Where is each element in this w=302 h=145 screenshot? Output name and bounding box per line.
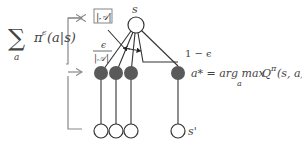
state-node-s — [128, 17, 144, 33]
svg-text:|𝒜|: |𝒜| — [94, 53, 109, 64]
state-label-s: s — [132, 3, 138, 16]
next-state-node — [94, 124, 108, 138]
policy-args: (a|s) — [47, 30, 76, 45]
svg-text:Q: Q — [262, 67, 271, 80]
next-state-node — [124, 124, 138, 138]
next-state-node-s-prime — [171, 124, 185, 138]
epsilon-fraction-label: ϵ |𝒜| — [93, 40, 112, 64]
greedy-action-formula: a* = arg max a Q π (s, a) — [191, 64, 302, 88]
sum-symbol: ∑ — [8, 24, 25, 52]
sum-index: a — [14, 52, 19, 62]
transition-edges — [101, 73, 178, 124]
action-nodes — [94, 66, 185, 80]
svg-text:ϵ: ϵ — [101, 40, 106, 50]
next-state-node — [109, 124, 123, 138]
lower-bracket — [68, 72, 82, 129]
svg-text:a* = arg max: a* = arg max — [191, 67, 266, 80]
svg-text:(s, a): (s, a) — [277, 67, 302, 80]
next-state-nodes — [94, 124, 185, 138]
svg-text:π: π — [270, 64, 277, 73]
next-state-label: s' — [188, 125, 197, 138]
action-node — [124, 66, 138, 80]
expectation-formula: ∑ a π ϵ (a|s) — [8, 24, 76, 62]
svg-text:a: a — [237, 79, 242, 88]
num-actions-label: |𝒜| — [94, 9, 112, 23]
backup-diagram: ∑ a π ϵ (a|s) s |𝒜| ϵ |𝒜| 1 − ϵ a* = arg… — [0, 0, 302, 145]
greedy-action-node — [171, 66, 185, 80]
one-minus-epsilon-label: 1 − ϵ — [185, 48, 212, 59]
svg-text:|𝒜|: |𝒜| — [96, 11, 112, 23]
action-node — [94, 66, 108, 80]
policy-edges — [101, 30, 178, 73]
action-node — [109, 66, 123, 80]
